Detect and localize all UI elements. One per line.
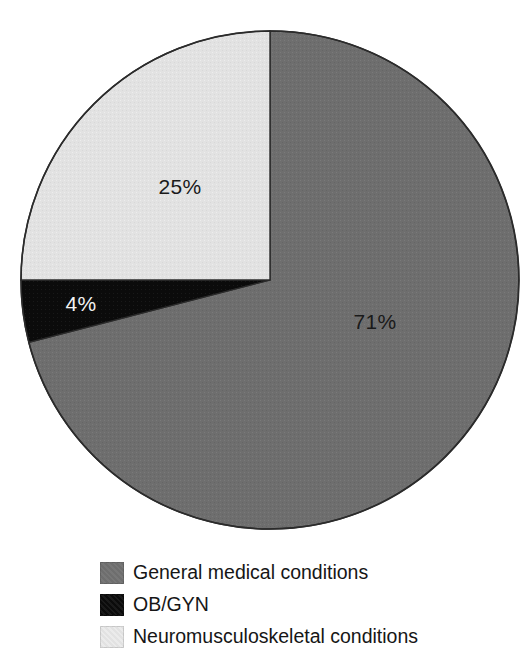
pie-slice-neuromusculoskeletal[interactable] xyxy=(21,31,270,280)
legend-swatch-obgyn xyxy=(100,594,124,616)
legend-label-general-medical: General medical conditions xyxy=(133,563,368,583)
pie-chart-svg xyxy=(0,0,530,545)
legend-swatch-neuromusculoskeletal xyxy=(100,626,124,648)
legend-swatch-general-medical xyxy=(100,562,124,584)
pie-value-label-obgyn: 4% xyxy=(66,293,97,314)
pie-value-label-neuromusculoskeletal: 25% xyxy=(159,176,202,197)
legend-item-general-medical[interactable]: General medical conditions xyxy=(100,557,520,589)
chart-legend: General medical conditions OB/GYN Neurom… xyxy=(100,557,520,653)
legend-label-neuromusculoskeletal: Neuromusculoskeletal conditions xyxy=(133,627,418,647)
pie-chart-figure: 71% 4% 25% General medical conditions OB… xyxy=(0,0,530,660)
pie-value-label-general-medical: 71% xyxy=(354,311,397,332)
legend-item-obgyn[interactable]: OB/GYN xyxy=(100,589,520,621)
legend-item-neuromusculoskeletal[interactable]: Neuromusculoskeletal conditions xyxy=(100,621,520,653)
pie-chart-plot-area: 71% 4% 25% xyxy=(0,0,530,545)
legend-label-obgyn: OB/GYN xyxy=(133,595,209,615)
